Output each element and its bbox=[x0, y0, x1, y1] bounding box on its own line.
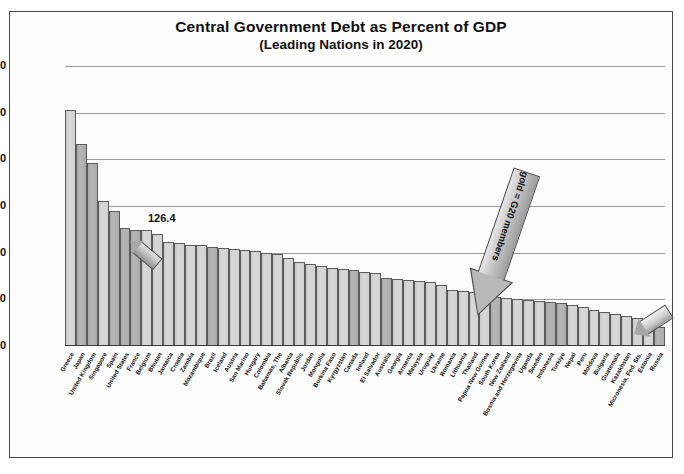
bar-column bbox=[327, 66, 338, 346]
bar-column bbox=[109, 66, 120, 346]
y-axis-tick-label: 300 bbox=[0, 59, 6, 71]
bar-column bbox=[436, 66, 447, 346]
bar-column bbox=[567, 66, 578, 346]
bar bbox=[381, 278, 392, 346]
bar bbox=[87, 163, 98, 346]
bar bbox=[512, 299, 523, 346]
bar-column bbox=[316, 66, 327, 346]
bar-column bbox=[359, 66, 370, 346]
bar-column bbox=[174, 66, 185, 346]
bar bbox=[196, 245, 207, 346]
title-block: Central Government Debt as Percent of GD… bbox=[10, 18, 672, 53]
bar-column bbox=[218, 66, 229, 346]
bar-column bbox=[261, 66, 272, 346]
bar-column bbox=[272, 66, 283, 346]
bar bbox=[545, 302, 556, 346]
bar-column bbox=[185, 66, 196, 346]
bar-column bbox=[196, 66, 207, 346]
bar-column bbox=[643, 66, 654, 346]
bar bbox=[218, 248, 229, 346]
bar bbox=[327, 268, 338, 346]
bar bbox=[447, 290, 458, 346]
bar-column bbox=[283, 66, 294, 346]
chart-subtitle: (Leading Nations in 2020) bbox=[10, 36, 672, 53]
bar bbox=[229, 249, 240, 346]
y-axis-tick-label: 200 bbox=[0, 152, 6, 164]
x-axis-line bbox=[65, 345, 665, 346]
bar bbox=[76, 144, 87, 346]
y-axis-tick-label: 250 bbox=[0, 106, 6, 118]
bar-column bbox=[632, 66, 643, 346]
bar-column bbox=[370, 66, 381, 346]
chart-frame: Central Government Debt as Percent of GD… bbox=[9, 11, 673, 458]
bar-column bbox=[152, 66, 163, 346]
bar-column bbox=[599, 66, 610, 346]
bar bbox=[359, 272, 370, 346]
bar-column bbox=[250, 66, 261, 346]
bar bbox=[349, 270, 360, 346]
bar-column bbox=[207, 66, 218, 346]
bar bbox=[578, 307, 589, 346]
bar bbox=[589, 310, 600, 346]
bar bbox=[109, 211, 120, 346]
bar bbox=[65, 110, 76, 346]
bar-column bbox=[141, 66, 152, 346]
bar bbox=[316, 266, 327, 346]
x-axis-label-cell: Russia bbox=[654, 348, 665, 468]
bar bbox=[338, 269, 349, 346]
bar-column bbox=[589, 66, 600, 346]
bar bbox=[294, 262, 305, 346]
bar-column bbox=[381, 66, 392, 346]
y-axis-tick-label: 0 bbox=[0, 339, 6, 351]
bar bbox=[654, 327, 665, 346]
bar bbox=[163, 242, 174, 346]
bar bbox=[370, 273, 381, 346]
bar-column bbox=[130, 66, 141, 346]
y-axis-tick-label: 100 bbox=[0, 246, 6, 258]
bar-column bbox=[76, 66, 87, 346]
bar bbox=[272, 254, 283, 346]
bar-column bbox=[349, 66, 360, 346]
chart-page: Central Government Debt as Percent of GD… bbox=[0, 0, 684, 474]
bar-column bbox=[98, 66, 109, 346]
page-title: Central Government Debt as Percent of GD… bbox=[10, 18, 672, 36]
bar-column bbox=[578, 66, 589, 346]
bar bbox=[207, 247, 218, 346]
value-callout-label: 126.4 bbox=[148, 212, 176, 224]
y-axis-tick-label: 150 bbox=[0, 199, 6, 211]
bar-column bbox=[240, 66, 251, 346]
bar bbox=[250, 251, 261, 346]
bar bbox=[414, 281, 425, 346]
x-axis-label-cell: Nepal bbox=[567, 348, 578, 468]
bar bbox=[261, 253, 272, 346]
bar-column bbox=[621, 66, 632, 346]
bar bbox=[610, 314, 621, 346]
bar-series bbox=[65, 66, 665, 346]
bar-column bbox=[414, 66, 425, 346]
bar-column bbox=[294, 66, 305, 346]
bar-column bbox=[403, 66, 414, 346]
x-axis-labels: GreeceJapanUnited KingdomSingaporeSpainU… bbox=[65, 348, 665, 468]
bar bbox=[240, 250, 251, 346]
y-axis-tick-label: 50 bbox=[0, 292, 6, 304]
bar-column bbox=[392, 66, 403, 346]
bar-column bbox=[65, 66, 76, 346]
bar bbox=[425, 282, 436, 346]
bar-column bbox=[229, 66, 240, 346]
bar-column bbox=[610, 66, 621, 346]
bar bbox=[523, 300, 534, 346]
bar bbox=[305, 264, 316, 346]
bar-column bbox=[545, 66, 556, 346]
plot-inner bbox=[65, 66, 665, 346]
bar bbox=[556, 303, 567, 346]
bar bbox=[185, 245, 196, 346]
bar bbox=[567, 305, 578, 346]
bar-column bbox=[425, 66, 436, 346]
bar-column bbox=[556, 66, 567, 346]
bar-column bbox=[163, 66, 174, 346]
bar bbox=[403, 280, 414, 346]
bar bbox=[174, 243, 185, 346]
bar-column bbox=[305, 66, 316, 346]
bar-column bbox=[87, 66, 98, 346]
bar bbox=[599, 312, 610, 346]
